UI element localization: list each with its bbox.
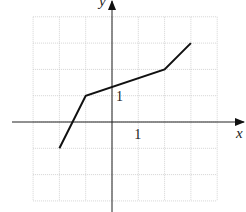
y-tick-label-1: 1 (116, 89, 123, 104)
graph-canvas: x y 1 1 (0, 0, 246, 212)
y-axis-label: y (97, 0, 106, 9)
x-tick-label-1: 1 (134, 127, 141, 142)
x-axis-label: x (235, 125, 243, 141)
